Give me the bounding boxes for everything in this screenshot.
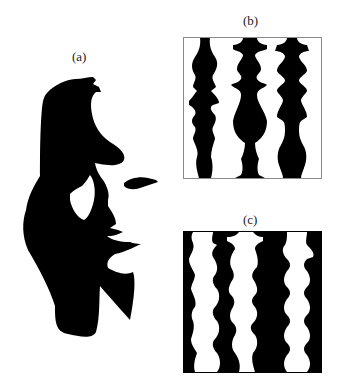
face-silhouette-figure	[0, 0, 170, 388]
black-columns-figure	[183, 37, 322, 179]
panel-c-label: (c)	[243, 213, 257, 226]
white-columns-figure	[183, 231, 322, 373]
panel-b-label: (b)	[243, 14, 258, 27]
